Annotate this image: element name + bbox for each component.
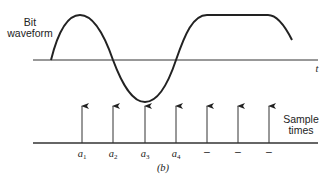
sample-point-label: a4 xyxy=(166,148,186,163)
sample-point-label: – xyxy=(197,146,217,157)
sample-name: – xyxy=(204,145,210,157)
sample-point-label: a2 xyxy=(103,148,123,163)
sample-name: – xyxy=(266,145,272,157)
sample-times-label: Sample times xyxy=(276,114,326,136)
waveform-label-line2: waveform xyxy=(2,28,58,39)
waveform-label: Bit waveform xyxy=(2,17,58,39)
sample-subscript: 3 xyxy=(146,153,150,161)
sample-label-line2: times xyxy=(276,125,326,136)
sample-subscript: 4 xyxy=(177,153,181,161)
sample-point-label: – xyxy=(259,146,279,157)
bit-waveform-curve xyxy=(51,15,292,102)
sample-point-label: a3 xyxy=(135,148,155,163)
sample-name: – xyxy=(235,145,241,157)
time-axis-label: t xyxy=(313,63,321,74)
panel-label: (b) xyxy=(148,162,178,173)
sample-point-label: – xyxy=(228,146,248,157)
sample-subscript: 2 xyxy=(114,153,118,161)
sample-point-label: a1 xyxy=(72,148,92,163)
sample-arrows xyxy=(82,106,269,143)
sample-subscript: 1 xyxy=(83,153,87,161)
